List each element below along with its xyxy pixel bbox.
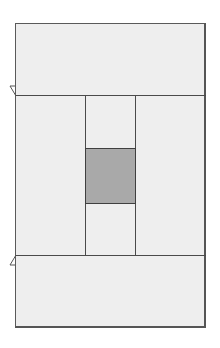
top-corner-marker-icon <box>9 85 17 97</box>
bottom-corner-marker-icon <box>9 254 17 266</box>
highlight-square <box>85 148 136 204</box>
bottom-divider <box>15 255 206 256</box>
top-divider <box>15 95 206 96</box>
